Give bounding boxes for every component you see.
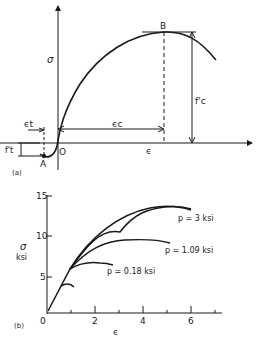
label-p-3-ksi: p = 3 ksi [178, 214, 214, 223]
panel-a-labels: σ B f'c ϵc ϵt O A f't ϵ (a) [5, 21, 206, 177]
epsilon-t-label: ϵt [24, 119, 34, 129]
label-p-1-09-ksi: p = 1.09 ksi [165, 246, 213, 255]
peak-b-label: B [160, 21, 166, 31]
origin-o-label: O [59, 147, 66, 157]
ft-label: f't [5, 146, 13, 155]
panel-a-sigma-label: σ [47, 54, 54, 65]
panel-a [0, 6, 252, 170]
curve-p-0 [61, 284, 74, 287]
x-tick-4: 4 [140, 316, 146, 326]
y-tick-10: 10 [36, 231, 48, 241]
curve-p-1-09-ksi [70, 240, 170, 269]
panel-b-labels: 15 10 5 0 2 4 6 σ ksi ϵ (b) p = 3 ksi p … [14, 191, 214, 337]
epsilon-c-label: ϵc [112, 119, 123, 129]
label-p-0-18-ksi: p = 0.18 ksi [107, 267, 155, 276]
panel-a-caption: (a) [12, 169, 22, 177]
figure: σ B f'c ϵc ϵt O A f't ϵ (a) 15 10 [0, 0, 264, 341]
y-tick-15: 15 [36, 191, 47, 201]
panel-b-sigma-label: σ [20, 241, 27, 252]
panel-b-caption: (b) [14, 322, 24, 330]
x-tick-6: 6 [188, 316, 194, 326]
panel-a-epsilon-label: ϵ [146, 146, 152, 156]
panel-b-epsilon-label: ϵ [113, 327, 119, 337]
x-tick-0: 0 [40, 316, 46, 326]
y-tick-5: 5 [40, 272, 46, 282]
x-tick-2: 2 [92, 316, 98, 326]
curve-p-3-ksi [48, 207, 191, 311]
panel-b-ksi-label: ksi [16, 253, 27, 262]
curve-p-3-ksi-envelope [70, 206, 191, 269]
point-a-label: A [40, 159, 47, 169]
fc-label: f'c [195, 96, 206, 106]
